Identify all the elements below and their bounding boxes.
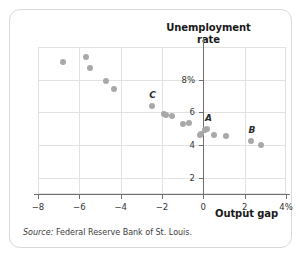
data-point [169, 113, 175, 119]
source-text: Federal Reserve Bank of St. Louis. [56, 228, 192, 237]
x-axis-title: Output gap [186, 208, 278, 219]
source-label: Source: [23, 228, 53, 237]
data-point [223, 133, 229, 139]
data-point [204, 126, 210, 132]
x-axis-tick-mark [121, 194, 122, 199]
y-axis-tick-label: 2 [38, 173, 195, 183]
data-point [180, 121, 186, 127]
x-axis-tick-label: −8 [32, 202, 45, 212]
x-axis-tick-mark [162, 194, 163, 199]
x-axis-tick-label: −6 [73, 202, 86, 212]
x-axis-tick-mark [79, 194, 80, 199]
y-axis-tick-label: 4 [38, 140, 195, 150]
x-axis-tick-mark [286, 194, 287, 199]
y-axis-tick-mark [199, 145, 204, 146]
x-axis-tick-label: −4 [114, 202, 127, 212]
x-axis-tick-mark [38, 194, 39, 199]
y-axis-line [203, 38, 204, 199]
source-note: Source: Federal Reserve Bank of St. Loui… [23, 228, 192, 237]
plot-area: −8−6−4−2024% 8%642 CAB [38, 47, 286, 194]
data-point [186, 120, 192, 126]
y-axis-tick-mark [199, 80, 204, 81]
data-point [149, 103, 155, 109]
x-axis-tick-mark [245, 194, 246, 199]
data-point-label-c: C [149, 90, 156, 100]
data-point-label-b: B [248, 125, 255, 135]
y-axis-title-line1: Unemployment [166, 22, 250, 33]
x-axis-tick-label: −2 [156, 202, 169, 212]
data-point [87, 65, 93, 71]
x-axis-tick-label: 4% [279, 202, 293, 212]
data-point [248, 138, 254, 144]
chart-figure: Unemployment rate −8−6−4−2024% 8%642 CAB… [9, 9, 292, 248]
y-axis-title-line2: rate [141, 34, 276, 46]
data-point [60, 59, 66, 65]
y-axis-title: Unemployment rate [141, 22, 276, 45]
y-axis-tick-label: 8% [38, 75, 195, 85]
data-point [83, 54, 89, 60]
data-point [103, 78, 109, 84]
data-point [111, 86, 117, 92]
x-axis-tick-mark [203, 194, 204, 199]
y-axis-tick-mark [199, 178, 204, 179]
data-point [163, 112, 169, 118]
data-point [258, 142, 264, 148]
y-axis-tick-mark [199, 112, 204, 113]
gridline-vertical [245, 47, 246, 194]
data-point-label-a: A [205, 113, 212, 123]
data-point [211, 132, 217, 138]
